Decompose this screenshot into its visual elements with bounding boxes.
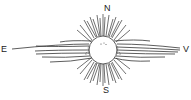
west-label: V: [183, 45, 189, 54]
equatorial-streamers-west: [114, 40, 180, 61]
east-label: E: [1, 45, 7, 54]
north-label: N: [104, 4, 111, 13]
sun-disc: [89, 36, 117, 64]
corona-diagram: [0, 0, 191, 100]
equatorial-streamers-east: [12, 41, 92, 62]
south-label: S: [103, 86, 109, 95]
